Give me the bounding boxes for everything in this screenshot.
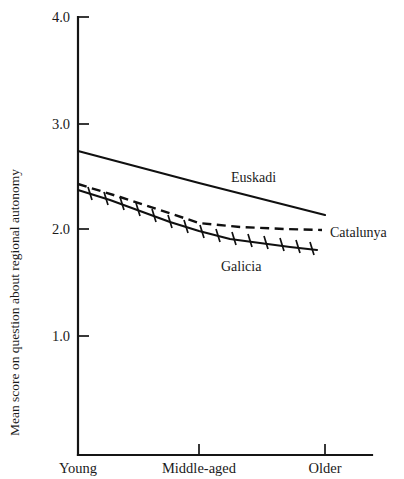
x-tick-label-older: Older (308, 460, 341, 476)
chart-canvas: 4.0 3.0 2.0 1.0 Young Middle-aged Older … (0, 0, 404, 479)
y-axis-title: Mean score on question about regional au… (7, 169, 22, 436)
series-label-catalunya: Catalunya (330, 225, 388, 240)
series-label-euskadi: Euskadi (231, 170, 276, 185)
y-tick-label-3: 3.0 (52, 116, 70, 132)
chart-figure: 4.0 3.0 2.0 1.0 Young Middle-aged Older … (0, 0, 404, 479)
x-tick-label-young: Young (59, 460, 97, 476)
y-tick-label-1: 1.0 (52, 328, 70, 344)
series-label-galicia: Galicia (221, 259, 262, 274)
y-tick-label-2: 2.0 (52, 221, 70, 237)
x-tick-label-middle-aged: Middle-aged (162, 460, 237, 476)
y-tick-label-4: 4.0 (52, 9, 70, 25)
